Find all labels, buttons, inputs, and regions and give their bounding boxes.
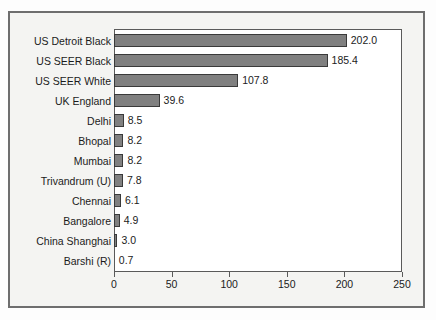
bar (114, 174, 123, 187)
bar (114, 74, 238, 87)
bar (114, 54, 328, 67)
bar-value-label: 8.2 (127, 153, 142, 168)
category-label: Barshi (R) (14, 251, 111, 271)
x-tick-label: 100 (220, 278, 238, 290)
bar-value-label: 185.4 (332, 53, 358, 68)
category-label: US SEER Black (14, 51, 111, 71)
category-label: Mumbai (14, 151, 111, 171)
bar (114, 194, 121, 207)
bar (114, 114, 124, 127)
bar-chart: US Detroit BlackUS SEER BlackUS SEER Whi… (0, 0, 436, 320)
bar-value-label: 0.7 (119, 253, 134, 268)
bar (114, 254, 115, 267)
bar-value-label: 6.1 (125, 193, 140, 208)
bar-row: 3.0 (114, 231, 402, 251)
category-label: Chennai (14, 191, 111, 211)
category-label: China Shanghai (14, 231, 111, 251)
bar-row: 6.1 (114, 191, 402, 211)
category-label: US Detroit Black (14, 31, 111, 51)
bar-row: 39.6 (114, 91, 402, 111)
bar-value-label: 107.8 (242, 73, 268, 88)
x-tick-mark (344, 272, 345, 277)
x-tick-mark (172, 272, 173, 277)
x-tick-mark (287, 272, 288, 277)
bar-row: 8.2 (114, 131, 402, 151)
bar (114, 134, 123, 147)
x-tick-mark (114, 272, 115, 277)
category-label: Trivandrum (U) (14, 171, 111, 191)
bar-value-label: 4.9 (124, 213, 139, 228)
category-label: Delhi (14, 111, 111, 131)
category-label: Bangalore (14, 211, 111, 231)
bar (114, 234, 117, 247)
x-axis: 050100150200250 (114, 272, 402, 302)
bar-value-label: 3.0 (121, 233, 136, 248)
x-tick-label: 50 (166, 278, 178, 290)
bar-row: 4.9 (114, 211, 402, 231)
bar-row: 8.5 (114, 111, 402, 131)
bar-row: 107.8 (114, 71, 402, 91)
bar-row: 8.2 (114, 151, 402, 171)
x-tick-label: 0 (111, 278, 117, 290)
bar-value-label: 202.0 (351, 33, 377, 48)
x-tick-mark (402, 272, 403, 277)
bar-value-label: 7.8 (127, 173, 142, 188)
bar-row: 7.8 (114, 171, 402, 191)
bar (114, 34, 347, 47)
bar (114, 94, 160, 107)
bar-row: 185.4 (114, 51, 402, 71)
x-tick-label: 150 (278, 278, 296, 290)
category-label: UK England (14, 91, 111, 111)
bar-row: 202.0 (114, 31, 402, 51)
x-tick-mark (229, 272, 230, 277)
bar-value-label: 39.6 (164, 93, 184, 108)
bar (114, 154, 123, 167)
category-label: US SEER White (14, 71, 111, 91)
bars-layer: 202.0185.4107.839.68.58.28.27.86.14.93.0… (114, 29, 402, 272)
x-tick-label: 250 (393, 278, 411, 290)
bar (114, 214, 120, 227)
x-tick-label: 200 (336, 278, 354, 290)
bar-value-label: 8.2 (127, 133, 142, 148)
category-label: Bhopal (14, 131, 111, 151)
bar-value-label: 8.5 (128, 113, 143, 128)
category-axis: US Detroit BlackUS SEER BlackUS SEER Whi… (14, 31, 111, 271)
bar-row: 0.7 (114, 251, 402, 271)
chart-figure: US Detroit BlackUS SEER BlackUS SEER Whi… (0, 0, 436, 320)
